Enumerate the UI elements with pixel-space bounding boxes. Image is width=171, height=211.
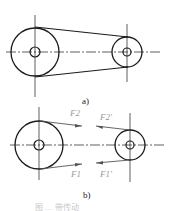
force-f2prime-label: F2'	[99, 112, 113, 122]
arrow-f2prime-icon	[96, 126, 103, 129]
belt-drive-diagram: a) F2 F2' F1 F1' b) 图 … 带传动	[0, 0, 171, 211]
force-f1prime-label: F1'	[99, 169, 113, 179]
panel-a-label: a)	[82, 96, 89, 106]
panel-b-label: b)	[83, 190, 91, 200]
arrow-f2-icon	[75, 124, 82, 128]
figure-caption: 图 … 带传动	[35, 202, 79, 211]
force-f1-label: F1	[70, 169, 81, 179]
force-f2-label: F2	[69, 108, 80, 118]
arrow-f1-icon	[75, 163, 82, 167]
arrow-f1prime-icon	[96, 161, 103, 165]
panel-a	[6, 15, 162, 97]
panel-b	[10, 107, 166, 182]
